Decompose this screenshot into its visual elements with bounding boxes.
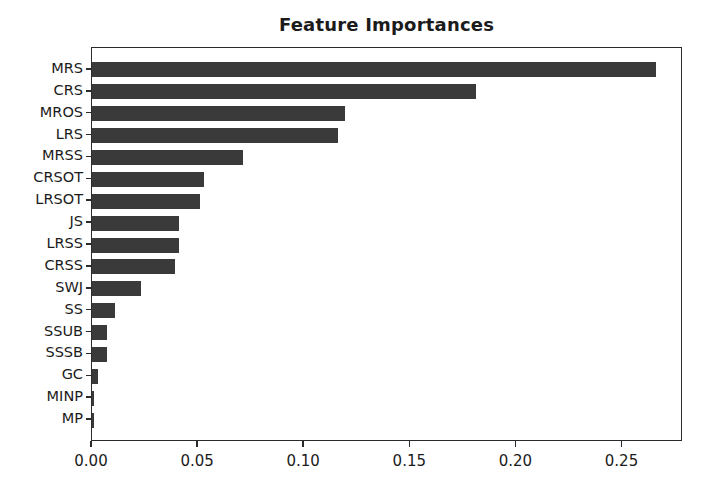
bar-fill: [92, 128, 338, 143]
bar-ss: [92, 303, 115, 318]
bar-lrs: [92, 128, 338, 143]
y-tick-mark-crs: [86, 90, 91, 92]
bar-lrss: [92, 238, 179, 253]
y-tick-mark-mrs: [86, 68, 91, 70]
bar-mrss: [92, 150, 243, 165]
y-tick-label-crss: CRSS: [0, 258, 83, 273]
y-tick-label-gc: GC: [0, 367, 83, 382]
x-tick-mark-3: [409, 441, 411, 447]
bar-crsot: [92, 172, 204, 187]
bar-mros: [92, 106, 345, 121]
bar-crss: [92, 259, 175, 274]
bar-fill: [92, 369, 98, 384]
y-tick-label-js: JS: [0, 214, 83, 229]
bar-fill: [92, 347, 107, 362]
bar-crs: [92, 84, 476, 99]
bar-mp: [92, 413, 94, 428]
bar-sssb: [92, 347, 107, 362]
y-tick-label-lrs: LRS: [0, 127, 83, 142]
bar-fill: [92, 303, 115, 318]
y-tick-mark-gc: [86, 375, 91, 377]
y-tick-label-ss: SS: [0, 302, 83, 317]
y-tick-label-mrss: MRSS: [0, 148, 83, 163]
bar-fill: [92, 62, 656, 77]
bar-fill: [92, 238, 179, 253]
y-tick-label-mros: MROS: [0, 105, 83, 120]
bar-fill: [92, 325, 107, 340]
feature-importances-figure: Feature Importances MRSCRSMROSLRSMRSSCRS…: [0, 0, 702, 497]
x-tick-mark-1: [196, 441, 198, 447]
y-tick-label-mrs: MRS: [0, 61, 83, 76]
y-tick-label-mp: MP: [0, 411, 83, 426]
y-tick-mark-ss: [86, 309, 91, 311]
y-tick-mark-minp: [86, 396, 91, 398]
y-tick-mark-lrs: [86, 134, 91, 136]
y-tick-label-crs: CRS: [0, 83, 83, 98]
x-tick-label-5: 0.25: [592, 452, 652, 470]
bar-lrsot: [92, 194, 200, 209]
y-tick-mark-js: [86, 221, 91, 223]
x-tick-label-1: 0.05: [167, 452, 227, 470]
y-tick-mark-mrss: [86, 156, 91, 158]
bar-fill: [92, 259, 175, 274]
x-tick-label-3: 0.15: [379, 452, 439, 470]
y-tick-mark-crss: [86, 265, 91, 267]
x-tick-mark-2: [302, 441, 304, 447]
chart-title: Feature Importances: [91, 14, 682, 35]
y-tick-label-swj: SWJ: [0, 280, 83, 295]
x-tick-label-4: 0.20: [485, 452, 545, 470]
bar-fill: [92, 413, 94, 428]
y-tick-label-ssub: SSUB: [0, 324, 83, 339]
bar-mrs: [92, 62, 656, 77]
y-tick-mark-mros: [86, 112, 91, 114]
y-tick-mark-crsot: [86, 178, 91, 180]
plot-area: [91, 47, 682, 441]
bar-gc: [92, 369, 98, 384]
y-tick-mark-ssub: [86, 331, 91, 333]
y-tick-mark-mp: [86, 418, 91, 420]
y-tick-mark-lrsot: [86, 199, 91, 201]
bar-fill: [92, 216, 179, 231]
bar-fill: [92, 281, 141, 296]
bar-ssub: [92, 325, 107, 340]
bar-fill: [92, 391, 94, 406]
y-tick-mark-sssb: [86, 353, 91, 355]
bar-js: [92, 216, 179, 231]
bar-fill: [92, 172, 204, 187]
x-tick-mark-0: [90, 441, 92, 447]
y-tick-mark-lrss: [86, 243, 91, 245]
bar-fill: [92, 106, 345, 121]
y-tick-label-minp: MINP: [0, 389, 83, 404]
y-tick-label-sssb: SSSB: [0, 345, 83, 360]
y-tick-label-crsot: CRSOT: [0, 170, 83, 185]
bar-fill: [92, 150, 243, 165]
bar-minp: [92, 391, 94, 406]
x-tick-label-0: 0.00: [61, 452, 121, 470]
y-tick-label-lrsot: LRSOT: [0, 192, 83, 207]
x-tick-mark-4: [515, 441, 517, 447]
x-tick-label-2: 0.10: [273, 452, 333, 470]
x-tick-mark-5: [621, 441, 623, 447]
y-tick-label-lrss: LRSS: [0, 236, 83, 251]
y-tick-mark-swj: [86, 287, 91, 289]
bar-fill: [92, 194, 200, 209]
bar-fill: [92, 84, 476, 99]
bar-swj: [92, 281, 141, 296]
